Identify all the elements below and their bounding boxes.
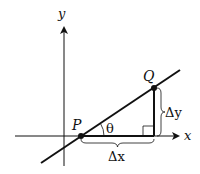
point-q-label: Q [143, 68, 155, 84]
slope-diagram: y x P Q θ Δx Δy [0, 0, 200, 174]
delta-y-brace [157, 88, 165, 136]
angle-label: θ [106, 121, 114, 136]
angle-arc [101, 124, 105, 137]
point-p-label: P [71, 117, 82, 133]
delta-x-brace [81, 139, 154, 147]
x-axis-label: x [184, 128, 192, 143]
delta-y-label: Δy [165, 105, 182, 120]
point-p [78, 133, 84, 139]
y-axis-label: y [57, 6, 66, 21]
delta-x-label: Δx [108, 149, 125, 164]
point-q [151, 85, 157, 91]
right-angle-marker [143, 126, 153, 136]
